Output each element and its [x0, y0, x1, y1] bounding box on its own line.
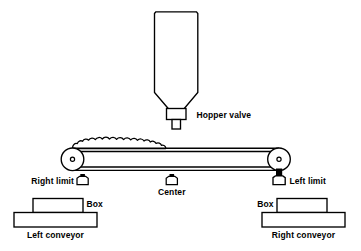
- hopper-valve-body: [167, 109, 187, 130]
- right-box-label: Box: [257, 199, 274, 209]
- right-conveyor-label: Right conveyor: [272, 230, 336, 240]
- diagram-canvas: Hopper valve Right limit Center Left lim…: [0, 0, 361, 251]
- material-pile: [73, 137, 166, 148]
- right-conveyor-body: [262, 213, 345, 228]
- conveyor-belt: [73, 148, 280, 170]
- left-conveyor-label: Left conveyor: [27, 230, 85, 240]
- right-limit-switch[interactable]: [77, 174, 88, 185]
- left-limit-label: Left limit: [290, 176, 326, 186]
- center-label: Center: [158, 187, 186, 197]
- center-switch[interactable]: [166, 174, 177, 185]
- right-conveyor-assembly: [262, 199, 345, 228]
- right-limit-label: Right limit: [31, 176, 74, 186]
- belt-roller-left: [61, 148, 84, 171]
- left-box-label: Box: [87, 199, 104, 209]
- left-conveyor-assembly: [14, 199, 97, 228]
- left-box: [33, 199, 83, 213]
- left-conveyor-body: [14, 213, 97, 228]
- hopper-tank: [155, 12, 198, 110]
- hopper-valve-label: Hopper valve: [197, 110, 252, 120]
- conveyor-hopper-diagram: Hopper valve Right limit Center Left lim…: [0, 0, 361, 251]
- belt-roller-right: [268, 148, 291, 171]
- right-box: [277, 199, 327, 213]
